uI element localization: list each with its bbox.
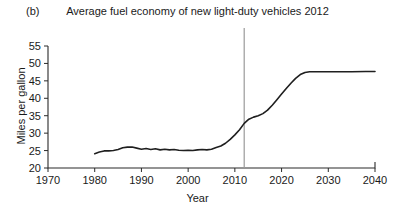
svg-text:55: 55 bbox=[29, 40, 41, 52]
svg-text:2020: 2020 bbox=[269, 174, 293, 186]
svg-text:2030: 2030 bbox=[316, 174, 340, 186]
svg-text:25: 25 bbox=[29, 145, 41, 157]
figure-panel-b: (b) Average fuel economy of new light-du… bbox=[0, 0, 395, 215]
svg-text:40: 40 bbox=[29, 92, 41, 104]
svg-text:30: 30 bbox=[29, 127, 41, 139]
x-axis-tick-labels: 19701980199020002010202020302040 bbox=[36, 174, 387, 186]
svg-text:1970: 1970 bbox=[36, 174, 60, 186]
svg-text:2010: 2010 bbox=[223, 174, 247, 186]
svg-text:45: 45 bbox=[29, 75, 41, 87]
line-chart: 2025303540455055 19701980199020002010202… bbox=[0, 0, 395, 215]
svg-text:1990: 1990 bbox=[129, 174, 153, 186]
x-axis-label: Year bbox=[0, 192, 395, 204]
svg-text:2000: 2000 bbox=[176, 174, 200, 186]
y-axis-label: Miles per gallon bbox=[15, 46, 27, 166]
chart-canvas: 2025303540455055 19701980199020002010202… bbox=[29, 28, 387, 186]
data-series-line bbox=[95, 71, 375, 153]
svg-text:35: 35 bbox=[29, 110, 41, 122]
svg-text:50: 50 bbox=[29, 57, 41, 69]
svg-text:20: 20 bbox=[29, 162, 41, 174]
svg-text:2040: 2040 bbox=[363, 174, 387, 186]
y-axis-tick-labels: 2025303540455055 bbox=[29, 40, 41, 174]
svg-text:1980: 1980 bbox=[82, 174, 106, 186]
y-axis-ticks bbox=[44, 46, 48, 168]
x-axis-ticks bbox=[48, 168, 375, 172]
